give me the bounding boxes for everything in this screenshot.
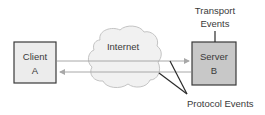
client-id: A (32, 65, 39, 76)
server-node: Server B (192, 42, 236, 85)
client-node: Client A (14, 42, 56, 83)
server-label: Server (200, 51, 228, 62)
internet-cloud: Internet (88, 26, 161, 87)
client-label: Client (23, 51, 48, 62)
protocol-callout-line-2 (159, 73, 187, 94)
transport-events-label-2: Events (200, 18, 229, 29)
server-id: B (211, 65, 217, 76)
network-events-diagram: Internet Client A Server B Transport Eve… (0, 0, 265, 115)
internet-label: Internet (107, 41, 140, 52)
protocol-events-label: Protocol Events (187, 98, 254, 109)
protocol-callout-line-1 (170, 61, 187, 94)
transport-events-label-1: Transport (195, 5, 236, 16)
